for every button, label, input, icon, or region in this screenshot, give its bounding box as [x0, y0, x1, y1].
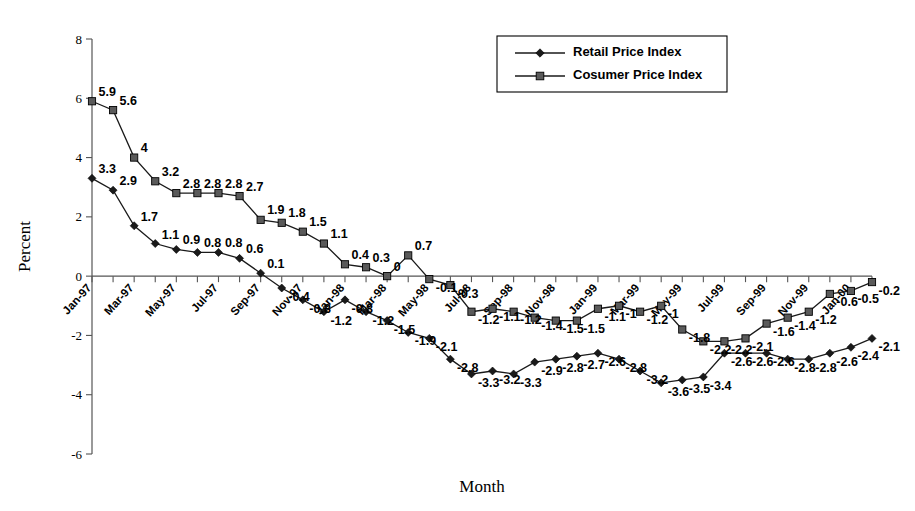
data-point-marker: [763, 320, 770, 327]
data-point-label: -3.3: [520, 376, 542, 390]
data-point-label: -3.2: [647, 373, 669, 387]
data-point-marker: [468, 308, 475, 315]
y-axis-title: Percent: [15, 221, 34, 272]
y-tick-label: 0: [76, 269, 83, 284]
data-point-label: -2.1: [752, 340, 774, 354]
data-point-label: -1.4: [794, 319, 816, 333]
y-tick-label: -2: [71, 328, 82, 343]
y-tick-label: 8: [76, 32, 83, 47]
data-point-marker: [658, 302, 665, 309]
data-point-label: -2.8: [626, 361, 648, 375]
y-tick-label: -6: [71, 447, 82, 462]
y-tick-label: 2: [76, 209, 83, 224]
data-point-label: -0.8: [351, 302, 373, 316]
data-point-marker: [131, 154, 138, 161]
data-point-marker: [805, 308, 812, 315]
data-point-marker: [88, 98, 95, 105]
legend-label-rpi[interactable]: Retail Price Index: [573, 44, 682, 59]
data-point-label: -1.1: [604, 310, 626, 324]
data-point-label: 1.1: [162, 228, 179, 242]
data-point-marker: [278, 219, 285, 226]
data-point-label: 3.3: [99, 162, 116, 176]
data-point-label: -2.2: [731, 343, 753, 357]
data-point-label: 1.7: [141, 210, 158, 224]
data-point-label: 5.6: [120, 94, 137, 108]
data-point-label: 2.9: [120, 174, 137, 188]
data-point-label: -1.2: [647, 313, 669, 327]
data-point-marker: [299, 228, 306, 235]
y-tick-label: 6: [76, 91, 83, 106]
data-point-label: -0.1: [436, 281, 458, 295]
data-point-label: -3.2: [499, 373, 521, 387]
data-point-label: 0.9: [183, 233, 200, 247]
data-point-label: 0.7: [415, 239, 432, 253]
data-point-label: -0.2: [879, 284, 901, 298]
data-point-label: 5.9: [99, 85, 116, 99]
data-point-label: -2.2: [710, 343, 732, 357]
data-point-label: -3.3: [478, 376, 500, 390]
data-point-marker: [173, 190, 180, 197]
data-point-label: 0.1: [267, 257, 284, 271]
data-point-marker: [109, 107, 116, 114]
data-point-label: -2.9: [541, 364, 563, 378]
data-point-label: -2.8: [815, 361, 837, 375]
data-point-marker: [679, 326, 686, 333]
legend[interactable]: Retail Price IndexCosumer Price Index: [497, 36, 727, 92]
data-point-label: -1.2: [478, 313, 500, 327]
data-point-label: 0.3: [373, 251, 390, 265]
data-point-label: -1: [626, 307, 637, 321]
data-point-marker: [257, 216, 264, 223]
data-point-label: 4: [141, 141, 148, 155]
data-point-marker: [236, 193, 243, 200]
data-point-label: -3.5: [689, 382, 711, 396]
data-point-label: 2.8: [225, 177, 242, 191]
data-point-label: -1.2: [330, 314, 352, 328]
data-point-label: 0.8: [204, 236, 221, 250]
legend-label-cpi[interactable]: Cosumer Price Index: [573, 67, 703, 82]
data-point-marker: [320, 240, 327, 247]
data-point-label: -2.1: [436, 340, 458, 354]
line-chart: 86420-2-4-6 Jan-97Mar-97May-97Jul-97Sep-…: [0, 0, 915, 511]
data-point-marker: [784, 314, 791, 321]
data-point-label: -3.4: [710, 379, 732, 393]
data-point-label: -1.9: [415, 334, 437, 348]
data-point-label: -2.8: [457, 361, 479, 375]
data-point-label: -2.7: [583, 358, 605, 372]
data-point-label: -0.6: [836, 295, 858, 309]
data-point-label: -0.4: [288, 290, 310, 304]
y-tick-label: 4: [76, 150, 83, 165]
data-point-label: -2.6: [836, 355, 858, 369]
data-point-label: 1.5: [309, 215, 326, 229]
data-point-label: -2.6: [752, 355, 774, 369]
data-point-marker: [594, 305, 601, 312]
data-point-label: -1.5: [583, 322, 605, 336]
data-point-label: 1.8: [288, 206, 305, 220]
data-point-label: -0.8: [309, 302, 331, 316]
data-point-label: -1.2: [815, 313, 837, 327]
data-point-marker: [384, 273, 391, 280]
data-point-marker: [742, 335, 749, 342]
data-point-label: -1.8: [689, 331, 711, 345]
data-point-marker: [826, 290, 833, 297]
data-point-marker: [362, 264, 369, 271]
data-point-label: -1.5: [562, 322, 584, 336]
data-point-marker: [637, 308, 644, 315]
data-point-label: 0.8: [225, 236, 242, 250]
chart-background: [0, 0, 915, 511]
data-point-label: -2.6: [773, 355, 795, 369]
data-point-label: 2.7: [246, 180, 263, 194]
data-point-label: -2.4: [857, 349, 879, 363]
data-point-marker: [868, 278, 875, 285]
data-point-label: -1.1: [499, 310, 521, 324]
data-point-label: 1.9: [267, 203, 284, 217]
data-point-label: -2.6: [604, 355, 626, 369]
data-point-label: -1.2: [373, 314, 395, 328]
data-point-label: -2.1: [879, 340, 901, 354]
data-point-label: 0: [394, 260, 401, 274]
chart-container: 86420-2-4-6 Jan-97Mar-97May-97Jul-97Sep-…: [0, 0, 915, 511]
data-point-marker: [847, 287, 854, 294]
data-point-marker: [615, 302, 622, 309]
data-point-label: 0.6: [246, 242, 263, 256]
y-tick-label: -4: [71, 387, 82, 402]
data-point-label: 2.8: [183, 177, 200, 191]
